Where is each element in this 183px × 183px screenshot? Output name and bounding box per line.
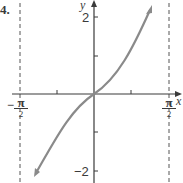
graph-plot [0,0,183,183]
y-tick-label-2: 2 [82,10,89,25]
tangent-graph-figure: 4. y x 2 −2 − π 2 π 2 [0,0,183,183]
x-tick-label-pi-over-2: π 2 [162,97,176,119]
x-right-denominator: 2 [162,109,176,119]
y-tick-label-neg2: −2 [74,164,89,179]
x-left-sign: − [7,98,14,112]
x-right-numerator: π [162,97,176,109]
curve-arrow-top-icon [146,5,152,14]
x-tick-label-neg-pi-over-2: π 2 [14,97,28,119]
tangent-curve [36,10,150,173]
x-axis-label: x [176,94,181,109]
problem-number: 4. [0,2,10,18]
y-axis-arrow-icon [91,0,97,7]
x-left-denominator: 2 [14,109,28,119]
x-left-numerator: π [14,97,28,109]
